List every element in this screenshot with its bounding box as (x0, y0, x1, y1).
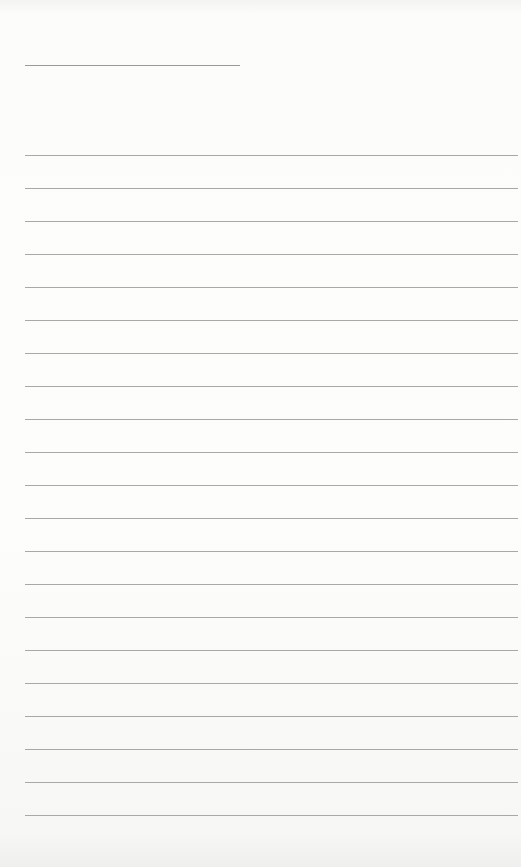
ruled-line (25, 320, 518, 321)
ruled-line (25, 386, 518, 387)
ruled-line (25, 584, 518, 585)
ruled-line (25, 287, 518, 288)
ruled-line (25, 782, 518, 783)
ruled-line (25, 815, 518, 816)
ruled-line (25, 518, 518, 519)
ruled-line (25, 419, 518, 420)
ruled-line (25, 485, 518, 486)
ruled-line (25, 650, 518, 651)
ruled-line (25, 452, 518, 453)
ruled-line (25, 353, 518, 354)
lined-paper-sheet (0, 0, 521, 867)
ruled-line (25, 188, 518, 189)
ruled-line (25, 221, 518, 222)
ruled-line (25, 551, 518, 552)
ruled-line (25, 617, 518, 618)
ruled-line (25, 683, 518, 684)
ruled-line (25, 749, 518, 750)
ruled-line (25, 155, 518, 156)
title-line (25, 65, 240, 66)
ruled-line (25, 254, 518, 255)
ruled-line (25, 716, 518, 717)
